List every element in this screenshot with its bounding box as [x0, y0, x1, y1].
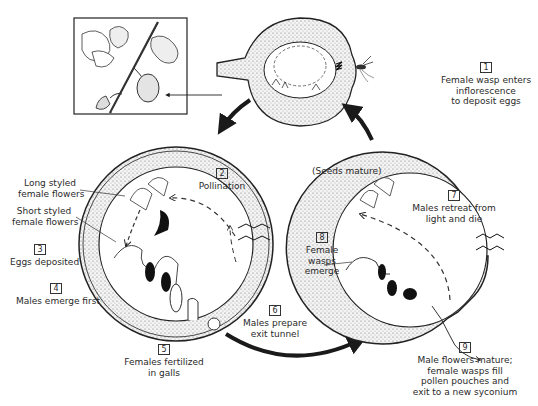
short-styled-annotation: Short styled female flowers [12, 206, 76, 227]
step-3-line: Eggs deposited [10, 257, 70, 268]
step-7-number: 7 [448, 190, 459, 201]
step-5-line: in galls [124, 368, 204, 379]
step-9-label: 9 Male flowers mature; female wasps fill… [410, 342, 520, 397]
step-8-label: 8 Female wasps emerge [302, 232, 342, 277]
step-8-line: wasps [302, 256, 342, 267]
step-3-label: 3 Eggs deposited [10, 244, 70, 268]
step-9-line: pollen pouches and [410, 376, 520, 387]
arrow-right-to-top [348, 108, 372, 140]
step-9-line: exit to a new syconium [410, 387, 520, 398]
step-6-label: 6 Males prepare exit tunnel [240, 305, 310, 339]
step-7-line: light and die [412, 214, 496, 225]
step-9-line: Male flowers mature; [410, 355, 520, 366]
annotation-line: female flowers [12, 217, 76, 228]
step-7-label: 7 Males retreat from light and die [412, 190, 496, 224]
step-5-line: Females fertilized [124, 357, 204, 368]
step-3-number: 3 [34, 244, 45, 255]
step-6-line: Males prepare [240, 318, 310, 329]
annotation-line: Short styled [12, 206, 76, 217]
step-4-line: Males emerge first [16, 296, 96, 307]
step-1-line: to deposit eggs [436, 96, 536, 107]
step-2-label: 2 Pollination [192, 168, 252, 192]
step-5-label: 5 Females fertilized in galls [124, 344, 204, 378]
step-8-line: emerge [302, 266, 342, 277]
seeds-mature-annotation: (Seeds mature) [312, 166, 372, 177]
annotation-line: female flowers [18, 189, 82, 200]
step-9-line: female wasps fill [410, 366, 520, 377]
arrow-top-to-left [222, 100, 250, 128]
step-4-number: 4 [50, 283, 61, 294]
fig-branch-inset [74, 18, 187, 114]
step-8-number: 8 [316, 232, 327, 243]
step-1-number: 1 [480, 62, 491, 73]
step-1-line: inflorescence [436, 86, 536, 97]
annotation-line: Long styled [18, 178, 82, 189]
step-1-label: 1 Female wasp enters inflorescence to de… [436, 62, 536, 107]
step-9-number: 9 [459, 342, 470, 353]
step-6-line: exit tunnel [240, 329, 310, 340]
step-8-line: Female [302, 245, 342, 256]
step-1-line: Female wasp enters [436, 75, 536, 86]
step-2-line: Pollination [192, 181, 252, 192]
step-5-number: 5 [158, 344, 169, 355]
step-4-label: 4 Males emerge first [16, 283, 96, 307]
step-2-number: 2 [216, 168, 227, 179]
female-wasp-icon [356, 56, 374, 82]
step-7-line: Males retreat from [412, 203, 496, 214]
annotation-line: (Seeds mature) [312, 166, 372, 177]
long-styled-annotation: Long styled female flowers [18, 178, 82, 199]
step-6-number: 6 [269, 305, 280, 316]
